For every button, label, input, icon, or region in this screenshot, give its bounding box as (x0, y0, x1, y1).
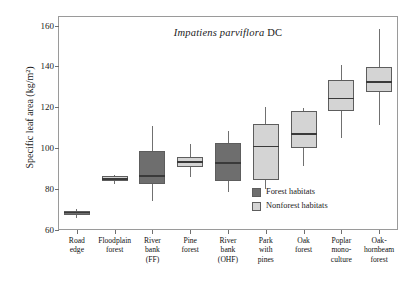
boxplot (64, 0, 90, 287)
median-line (177, 161, 203, 163)
boxplot-chart: Impatiens parviflora DC Specific leaf ar… (0, 0, 406, 287)
box-iqr (253, 124, 279, 180)
legend-item-forest: Forest habitats (252, 186, 328, 198)
y-tick-label: 80 (30, 185, 54, 194)
boxplot (177, 0, 203, 287)
y-tick-label: 60 (30, 226, 54, 235)
y-tick-mark (55, 189, 59, 190)
whisker-lower (76, 215, 77, 218)
legend-label-forest: Forest habitats (266, 186, 315, 198)
whisker-upper (190, 144, 191, 156)
whisker-lower (303, 148, 304, 165)
y-tick-mark (55, 230, 59, 231)
boxplot (366, 0, 392, 287)
box-iqr (139, 151, 165, 185)
box-iqr (366, 67, 392, 92)
whisker-lower (114, 181, 115, 184)
y-tick-label: 160 (30, 22, 54, 31)
boxplot (291, 0, 317, 287)
boxplot (102, 0, 128, 287)
legend-swatch-nonforest (252, 202, 261, 211)
median-line (215, 162, 241, 164)
whisker-upper (341, 65, 342, 80)
legend-swatch-forest (252, 188, 261, 197)
median-line (366, 81, 392, 83)
whisker-lower (190, 167, 191, 177)
legend: Forest habitats Nonforest habitats (252, 186, 328, 214)
y-tick-mark (55, 107, 59, 108)
whisker-lower (228, 181, 229, 192)
box-iqr (291, 111, 317, 149)
y-tick-mark (55, 26, 59, 27)
median-line (64, 212, 90, 214)
boxplot (215, 0, 241, 287)
median-line (253, 146, 279, 148)
y-tick-label: 100 (30, 144, 54, 153)
boxplot (328, 0, 354, 287)
median-line (139, 175, 165, 177)
whisker-upper (228, 131, 229, 143)
median-line (328, 98, 354, 100)
boxplot (253, 0, 279, 287)
y-tick-mark (55, 148, 59, 149)
y-tick-mark (55, 66, 59, 67)
whisker-lower (379, 92, 380, 125)
whisker-upper (265, 107, 266, 124)
median-line (102, 178, 128, 180)
boxplot (139, 0, 165, 287)
legend-item-nonforest: Nonforest habitats (252, 200, 328, 212)
y-tick-label: 140 (30, 62, 54, 71)
median-line (291, 133, 317, 135)
box-iqr (328, 80, 354, 111)
whisker-lower (152, 184, 153, 201)
legend-label-nonforest: Nonforest habitats (266, 200, 328, 212)
y-tick-label: 120 (30, 103, 54, 112)
whisker-lower (341, 111, 342, 139)
whisker-upper (379, 29, 380, 67)
whisker-upper (152, 126, 153, 150)
